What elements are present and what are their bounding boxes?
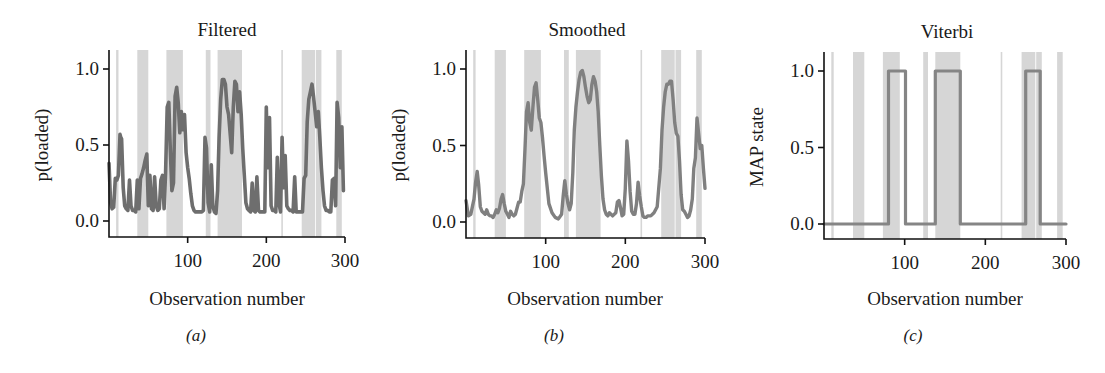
y-tick-label: 0.5	[790, 137, 814, 158]
chart-title: Smoothed	[548, 19, 626, 40]
y-tick-label: 0.0	[432, 211, 456, 232]
x-tick-label: 200	[252, 250, 281, 271]
x-tick-label: 100	[531, 251, 560, 272]
x-axis-label: Observation number	[867, 288, 1023, 309]
x-tick-label: 300	[691, 251, 720, 272]
shaded-region	[831, 52, 833, 239]
shaded-region	[1022, 52, 1036, 239]
x-tick-label: 100	[173, 250, 202, 271]
subfigure-caption: (a)	[186, 326, 206, 345]
x-tick-label: 200	[971, 252, 1000, 273]
subfigure-caption: (c)	[904, 326, 923, 345]
figure: 0.00.51.0100200300 Filtered p(loaded) Ob…	[0, 0, 1105, 373]
shaded-region	[661, 50, 675, 238]
y-tick-label: 0.0	[75, 210, 99, 231]
y-tick-label: 1.0	[75, 58, 99, 79]
chart-title: Viterbi	[921, 21, 974, 42]
x-axis-label: Observation number	[149, 288, 305, 309]
y-axis-label: p(loaded)	[388, 109, 410, 182]
x-tick-label: 300	[331, 250, 360, 271]
shaded-regions	[831, 52, 1062, 239]
x-tick-label: 100	[890, 252, 919, 273]
y-axis-label: p(loaded)	[31, 109, 53, 182]
shaded-regions	[473, 50, 702, 238]
shaded-region	[935, 52, 960, 239]
y-tick-label: 0.5	[75, 134, 99, 155]
x-axis-label: Observation number	[507, 288, 663, 309]
panel-filtered: 0.00.51.0100200300 Filtered p(loaded) Ob…	[31, 19, 359, 345]
shaded-region	[853, 52, 864, 239]
panel-smoothed: 0.00.51.0100200300 Smoothed p(loaded) Ob…	[388, 19, 719, 345]
shaded-region	[1001, 52, 1003, 239]
shaded-region	[473, 50, 475, 238]
panel-viterbi: 0.00.51.0100200300 Viterbi MAP state Obs…	[746, 21, 1080, 345]
x-tick-label: 200	[611, 251, 640, 272]
subfigure-caption: (b)	[544, 326, 564, 345]
y-tick-label: 1.0	[790, 60, 814, 81]
y-tick-label: 1.0	[432, 58, 456, 79]
x-tick-label: 300	[1052, 252, 1081, 273]
shaded-region	[923, 52, 928, 239]
y-tick-label: 0.5	[432, 135, 456, 156]
chart-title: Filtered	[197, 19, 257, 40]
shaded-region	[1057, 52, 1063, 239]
y-axis-label: MAP state	[746, 107, 767, 187]
y-tick-label: 0.0	[790, 213, 814, 234]
shaded-region	[883, 52, 900, 239]
